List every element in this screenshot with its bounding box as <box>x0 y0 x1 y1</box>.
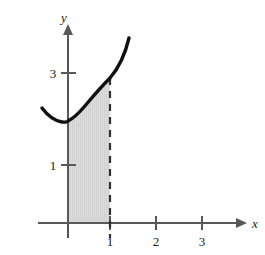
x-tick-label-1: 1 <box>107 234 114 249</box>
y-tick-label-1: 1 <box>50 158 57 173</box>
x-tick-label-3: 3 <box>199 234 206 249</box>
x-axis-arrow-icon <box>236 218 247 228</box>
area-under-curve-figure: y x 3 1 1 2 3 <box>0 0 265 255</box>
y-tick-label-3: 3 <box>50 66 57 81</box>
x-axis-label: x <box>251 216 258 231</box>
y-axis-arrow-icon <box>63 24 73 35</box>
figure-container: y x 3 1 1 2 3 <box>0 0 265 255</box>
x-tick-label-2: 2 <box>153 234 160 249</box>
y-axis-label: y <box>59 10 67 25</box>
